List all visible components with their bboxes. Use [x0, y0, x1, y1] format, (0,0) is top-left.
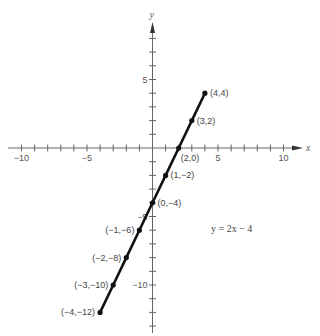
data-point — [150, 200, 155, 205]
data-point — [137, 228, 142, 233]
y-tick-label: −10 — [132, 280, 147, 290]
y-tick-label: 5 — [142, 75, 147, 85]
x-tick-label: 10 — [278, 153, 288, 163]
point-label: (2,0) — [181, 153, 200, 163]
line-chart: −10−55105−5−10 (4,4)(3,2)(2,0)(1,−2)(0,−… — [0, 0, 320, 336]
data-point — [202, 91, 207, 96]
point-label: (0,−4) — [158, 198, 182, 208]
x-tick-label: −5 — [82, 153, 92, 163]
point-label: (4,4) — [210, 88, 229, 98]
data-point — [176, 145, 181, 150]
point-label: (−3,−10) — [74, 280, 108, 290]
x-axis-label: x — [305, 142, 311, 153]
data-point — [189, 118, 194, 123]
x-tick-label: −10 — [14, 153, 29, 163]
data-point — [124, 255, 129, 260]
point-label: (3,2) — [197, 116, 216, 126]
point-label: (−1,−6) — [105, 225, 134, 235]
y-axis-arrow-icon — [150, 22, 155, 33]
x-axis-arrow-icon — [292, 146, 303, 151]
axes: −10−55105−5−10 — [8, 22, 303, 333]
point-label: (1,−2) — [171, 170, 195, 180]
point-label: (−4,−12) — [61, 307, 95, 317]
data-point — [111, 282, 116, 287]
point-label: (−2,−8) — [92, 253, 121, 263]
y-axis-label: y — [149, 9, 155, 20]
x-tick-label: 5 — [215, 153, 220, 163]
data-point — [98, 310, 103, 315]
equation-annotation: y = 2x − 4 — [211, 223, 252, 234]
data-point — [163, 173, 168, 178]
